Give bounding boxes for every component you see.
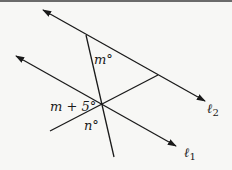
geometry-diagram: m° m + 5° n° ℓ2 ℓ1 [0, 0, 232, 170]
angle-label-top: m° [94, 52, 113, 67]
angle-label-bottom: n° [84, 118, 99, 133]
line-label-l2: ℓ2 [207, 101, 219, 118]
line-label-l1: ℓ1 [184, 145, 196, 162]
angle-label-left: m + 5° [50, 99, 96, 114]
line-l2 [43, 10, 205, 101]
